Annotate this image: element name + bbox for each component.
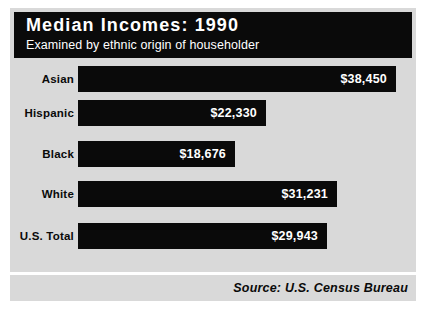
chart-figure: Median Incomes: 1990 Examined by ethnic … [0,0,424,313]
bar-value-label: $22,330 [210,100,257,126]
bar-track: $29,943 [78,221,327,251]
bar-row: Black $18,676 [10,139,416,169]
bar-category-label: Hispanic [10,98,74,128]
chart-subtitle: Examined by ethnic origin of householder [26,36,259,54]
bar-row: White $31,231 [10,179,416,209]
source-note: Source: U.S. Census Bureau [233,275,408,301]
bar-track: $31,231 [78,179,337,209]
plot-area: Asian $38,450 Hispanic $22,330 Black $18… [10,64,416,268]
bar-category-label: White [10,179,74,209]
bar-row: U.S. Total $29,943 [10,221,416,251]
bar-value-label: $18,676 [179,141,226,167]
bar-track: $18,676 [78,139,235,169]
bar-value-label: $31,231 [281,181,328,207]
chart-title: Median Incomes: 1990 [26,13,239,37]
bar-category-label: Asian [10,64,74,94]
bar-category-label: Black [10,139,74,169]
bar-row: Asian $38,450 [10,64,416,94]
bar-row: Hispanic $22,330 [10,98,416,128]
bar-track: $22,330 [78,98,266,128]
bar-category-label: U.S. Total [10,221,74,251]
bar-value-label: $38,450 [340,66,387,92]
bar-track: $38,450 [78,64,396,94]
title-block: Median Incomes: 1990 Examined by ethnic … [14,12,412,58]
bar-value-label: $29,943 [271,223,318,249]
source-band: Source: U.S. Census Bureau [10,275,416,301]
